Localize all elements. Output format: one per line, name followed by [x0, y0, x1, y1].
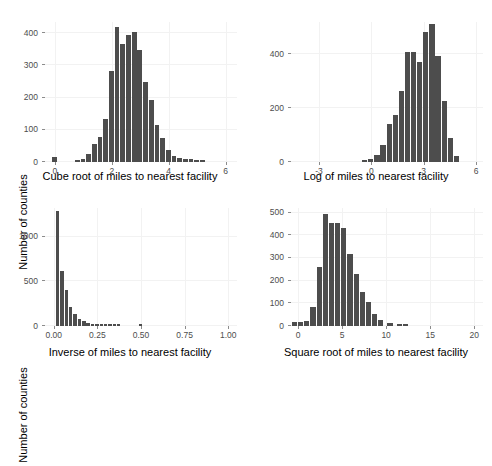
- x-axis-tick-label: 0: [40, 167, 70, 176]
- y-axis-tick-label: 0: [0, 158, 38, 167]
- histogram-bar: [120, 44, 125, 162]
- gridline-vertical: [319, 22, 320, 162]
- histogram-bar: [108, 324, 111, 326]
- x-axis-tick-mark: [55, 162, 56, 165]
- x-axis-tick-mark: [476, 162, 477, 165]
- x-axis-tick-label: 15: [415, 331, 445, 340]
- gridline-vertical: [386, 208, 387, 326]
- plot-area-cube-root: 01002003004000246: [45, 22, 237, 162]
- histogram-bar: [429, 24, 434, 162]
- histogram-bar: [374, 155, 379, 162]
- histogram-bar: [194, 160, 199, 162]
- y-axis-tick-mark: [288, 107, 291, 108]
- x-axis-tick-label: 1.00: [213, 331, 243, 340]
- histogram-bar: [372, 314, 377, 326]
- histogram-bar: [362, 160, 367, 162]
- panel-log-inner: Log of miles to nearest facility 0200400…: [246, 0, 492, 194]
- gridline-vertical: [55, 22, 56, 162]
- x-axis-tick-label: 3: [409, 167, 439, 176]
- histogram-bar: [132, 32, 137, 162]
- histogram-bar: [380, 145, 385, 162]
- histogram-bar: [100, 324, 103, 326]
- histogram-bar: [60, 271, 63, 326]
- histogram-bar: [347, 254, 352, 326]
- histogram-bar: [341, 228, 346, 326]
- panel-inverse-inner: Number of counties Inverse of miles to n…: [0, 195, 246, 389]
- histogram-bar: [155, 125, 160, 162]
- histogram-bar: [435, 56, 440, 162]
- histogram-bar: [126, 35, 131, 162]
- y-axis-tick-mark: [288, 234, 291, 235]
- y-axis-tick-mark: [42, 64, 45, 65]
- plot-area-inverse: 050010000.000.250.500.751.00: [45, 208, 237, 326]
- y-axis-tick-label: 200: [244, 104, 284, 113]
- gridline-vertical: [141, 208, 142, 326]
- y-axis-tick-mark: [42, 236, 45, 237]
- histogram-bar: [86, 154, 91, 162]
- histogram-bar: [378, 320, 383, 326]
- panel-cube-root-inner: Number of counties Cube root of miles to…: [0, 0, 246, 194]
- x-axis-tick-mark: [298, 326, 299, 329]
- x-axis-tick-label: 10: [371, 331, 401, 340]
- histogram-bar: [423, 32, 428, 162]
- x-axis-tick-label: 5: [327, 331, 357, 340]
- y-axis-tick-mark: [288, 280, 291, 281]
- x-axis-tick-mark: [228, 326, 229, 329]
- x-axis-tick-mark: [430, 326, 431, 329]
- y-axis-tick-label: 100: [0, 125, 38, 134]
- panel-log: Log of miles to nearest facility 0200400…: [246, 0, 492, 194]
- gridline-vertical: [298, 208, 299, 326]
- histogram-bar: [442, 101, 447, 162]
- gridline-vertical: [476, 22, 477, 162]
- x-axis-tick-label: 2: [97, 167, 127, 176]
- histogram-bar: [387, 124, 392, 162]
- histogram-bar: [104, 324, 107, 326]
- histogram-bar: [354, 274, 359, 326]
- histogram-bar: [117, 324, 120, 326]
- x-axis-tick-label: 0.75: [170, 331, 200, 340]
- histogram-bar: [397, 324, 402, 326]
- panel-square-root: Square root of miles to nearest facility…: [246, 195, 492, 389]
- histogram-bar: [417, 62, 422, 162]
- x-axis-tick-label: 20: [459, 331, 489, 340]
- y-axis-tick-mark: [288, 302, 291, 303]
- gridline-vertical: [185, 208, 186, 326]
- histogram-bar: [393, 115, 398, 162]
- y-axis-tick-label: 1000: [0, 232, 38, 241]
- x-axis-tick-label: 0.50: [126, 331, 156, 340]
- histogram-bar: [360, 292, 365, 326]
- panel-square-root-inner: Square root of miles to nearest facility…: [246, 195, 492, 389]
- x-axis-tick-mark: [474, 326, 475, 329]
- y-axis-tick-label: 500: [0, 277, 38, 286]
- y-axis-tick-label: 100: [244, 299, 284, 308]
- y-axis-tick-label: 200: [0, 93, 38, 102]
- y-axis-tick-mark: [288, 53, 291, 54]
- histogram-bar: [366, 302, 371, 326]
- histogram-bar: [399, 91, 404, 162]
- histogram-bar: [304, 321, 309, 326]
- panel-cube-root: Number of counties Cube root of miles to…: [0, 0, 246, 194]
- y-axis-tick-label: 0: [0, 322, 38, 331]
- gridline-vertical: [228, 208, 229, 326]
- gridline-vertical: [97, 208, 98, 326]
- y-axis-tick-mark: [288, 212, 291, 213]
- histogram-bar: [172, 156, 177, 162]
- y-axis-tick-mark: [42, 280, 45, 281]
- histogram-bar: [113, 324, 116, 326]
- histogram-bar: [387, 323, 392, 326]
- gridline-vertical: [226, 22, 227, 162]
- x-axis-tick-mark: [141, 326, 142, 329]
- y-axis-tick-mark: [42, 32, 45, 33]
- x-axis-tick-label: 4: [154, 167, 184, 176]
- x-axis-tick-mark: [386, 326, 387, 329]
- x-axis-tick-label: 0.25: [82, 331, 112, 340]
- histogram-bar: [78, 319, 81, 326]
- x-axis-tick-label: 0.00: [39, 331, 69, 340]
- x-axis-tick-label: 6: [211, 167, 241, 176]
- x-axis-tick-mark: [371, 162, 372, 165]
- x-axis-tick-mark: [169, 162, 170, 165]
- histogram-bar: [91, 324, 94, 326]
- histogram-bar: [403, 324, 408, 326]
- x-axis-tick-mark: [342, 326, 343, 329]
- histogram-bar: [109, 71, 114, 162]
